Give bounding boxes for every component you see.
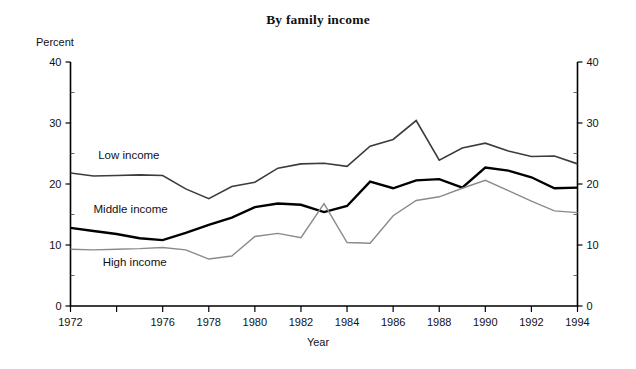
- y-tick-label-right: 10: [587, 239, 599, 251]
- series-label-low-income: Low income: [98, 149, 159, 161]
- chart-container: By family income Percent 001010202030304…: [0, 0, 636, 369]
- x-tick-label: 1980: [243, 316, 267, 328]
- y-tick-label-left: 20: [49, 178, 61, 190]
- y-tick-label-left: 0: [55, 300, 61, 312]
- y-tick-label-left: 40: [49, 56, 61, 68]
- x-axis-title: Year: [0, 336, 636, 348]
- series-label-middle-income: Middle income: [94, 203, 168, 215]
- y-tick-label-left: 30: [49, 117, 61, 129]
- y-tick-label-right: 0: [587, 300, 593, 312]
- series-label-high-income: High income: [103, 256, 167, 268]
- x-tick-label: 1986: [381, 316, 405, 328]
- x-tick-label: 1982: [289, 316, 313, 328]
- x-tick-label: 1978: [197, 316, 221, 328]
- y-tick-label-right: 40: [587, 56, 599, 68]
- axis-frame: [71, 62, 578, 306]
- y-tick-label-right: 20: [587, 178, 599, 190]
- y-tick-label-left: 10: [49, 239, 61, 251]
- x-tick-label: 1976: [150, 316, 174, 328]
- series-line-high-income: [71, 180, 578, 259]
- line-chart-plot: 0010102020303040401972197619781980198219…: [0, 0, 636, 369]
- x-tick-label: 1988: [427, 316, 451, 328]
- x-tick-label: 1994: [565, 316, 589, 328]
- y-tick-label-right: 30: [587, 117, 599, 129]
- x-tick-label: 1984: [335, 316, 359, 328]
- x-tick-label: 1972: [58, 316, 82, 328]
- x-tick-label: 1990: [473, 316, 497, 328]
- x-tick-label: 1992: [519, 316, 543, 328]
